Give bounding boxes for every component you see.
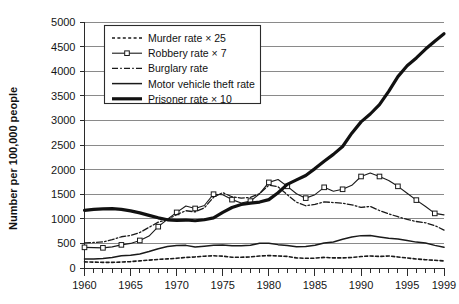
series-marker xyxy=(230,197,235,202)
series-marker xyxy=(211,192,216,197)
x-tick-label: 1999 xyxy=(432,279,456,291)
series-marker xyxy=(340,187,345,192)
line-chart: 0500100015002000250030003500400045005000… xyxy=(0,0,459,304)
y-tick-label: 3500 xyxy=(51,90,75,102)
series-marker xyxy=(193,206,198,211)
legend-swatch-marker xyxy=(125,51,130,56)
series-marker xyxy=(303,196,308,201)
series-marker xyxy=(82,245,87,250)
legend-label: Motor vehicle theft rate xyxy=(148,78,255,90)
y-tick-label: 1500 xyxy=(51,188,75,200)
legend-label: Prisoner rate × 10 xyxy=(148,93,232,105)
x-tick-label: 1985 xyxy=(303,279,327,291)
x-tick-label: 1970 xyxy=(164,279,188,291)
legend-label: Murder rate × 25 xyxy=(148,32,226,44)
y-tick-label: 2000 xyxy=(51,164,75,176)
x-tick-label: 1990 xyxy=(349,279,373,291)
y-tick-label: 2500 xyxy=(51,139,75,151)
series-line xyxy=(85,173,445,248)
x-tick-label: 1995 xyxy=(395,279,419,291)
legend-label: Robbery rate × 7 xyxy=(148,47,227,59)
x-axis-tick-labels: 196019651970197519801985199019951999 xyxy=(72,279,456,291)
y-tick-label: 4000 xyxy=(51,65,75,77)
y-axis-title: Number per 100,000 people xyxy=(7,87,19,230)
series-marker xyxy=(101,246,106,251)
legend-label: Burglary rate xyxy=(148,62,208,74)
series-marker xyxy=(377,174,382,179)
y-tick-label: 1000 xyxy=(51,213,75,225)
series-marker xyxy=(138,238,143,243)
series-marker xyxy=(396,184,401,189)
x-tick-label: 1965 xyxy=(118,279,142,291)
series-marker xyxy=(322,185,327,190)
y-tick-label: 0 xyxy=(69,262,75,274)
x-axis-minor-tickmarks xyxy=(85,268,445,276)
y-tick-label: 500 xyxy=(57,237,75,249)
series-0 xyxy=(85,256,445,263)
y-tick-label: 4500 xyxy=(51,41,75,53)
series-marker xyxy=(414,198,419,203)
series-marker xyxy=(267,180,272,185)
y-tick-label: 5000 xyxy=(51,16,75,28)
series-marker xyxy=(432,211,437,216)
x-tick-label: 1960 xyxy=(72,279,96,291)
x-tick-label: 1975 xyxy=(211,279,235,291)
series-line xyxy=(85,256,445,263)
series-marker xyxy=(156,224,161,229)
y-tick-label: 3000 xyxy=(51,114,75,126)
chart-legend[interactable]: Murder rate × 25Robbery rate × 7Burglary… xyxy=(105,26,261,105)
chart-container: 0500100015002000250030003500400045005000… xyxy=(0,0,459,304)
x-tick-label: 1980 xyxy=(257,279,281,291)
y-axis-tick-labels: 0500100015002000250030003500400045005000 xyxy=(51,16,75,274)
series-marker xyxy=(359,174,364,179)
series-marker xyxy=(119,243,124,248)
